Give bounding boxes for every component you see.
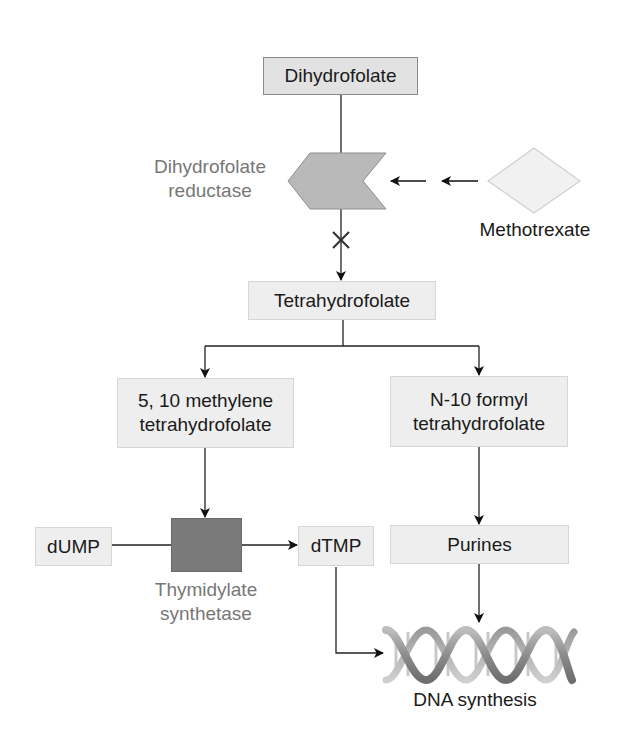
- node-dtmp: dTMP: [298, 526, 374, 566]
- node-formyl-thf: N-10 formyl tetrahydrofolate: [390, 376, 568, 447]
- dhfr-label: Dihydrofolate reductase: [140, 155, 280, 203]
- node-dihydrofolate-label: Dihydrofolate: [285, 64, 397, 88]
- node-purines: Purines: [390, 525, 569, 564]
- node-dihydrofolate: Dihydrofolate: [263, 57, 418, 95]
- dna-helix-icon: [386, 630, 574, 680]
- methotrexate-diamond: [488, 148, 580, 213]
- dna-synthesis-label: DNA synthesis: [395, 688, 555, 712]
- node-tetrahydrofolate: Tetrahydrofolate: [248, 281, 436, 320]
- thymidylate-synthetase-label: Thymidylate synthetase: [136, 578, 276, 626]
- arrow-dtmp-to-dna: [336, 567, 383, 653]
- node-dump: dUMP: [35, 527, 112, 566]
- dhfr-enzyme-shape: [288, 153, 386, 209]
- thymidylate-synthetase-shape: [171, 518, 242, 572]
- methotrexate-label: Methotrexate: [455, 218, 615, 242]
- node-methylene-thf: 5, 10 methylene tetrahydrofolate: [117, 378, 294, 448]
- diagram-connectors: [0, 0, 632, 732]
